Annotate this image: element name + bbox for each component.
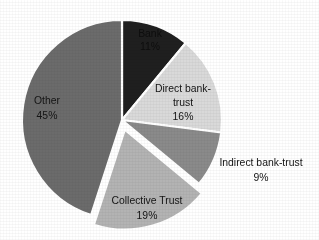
slice-label-other-value: 45%: [37, 110, 58, 121]
slice-label-collective-value: 19%: [137, 210, 158, 221]
slice-label-other-name: Other: [34, 95, 61, 106]
slice-label-collective-name: Collective Trust: [111, 195, 182, 206]
pie-chart-canvas: Bank 11% Direct bank- trust 16% Indirect…: [0, 0, 319, 240]
slice-label-bank-value: 11%: [140, 41, 160, 52]
pie-chart-figure: Bank 11% Direct bank- trust 16% Indirect…: [0, 0, 319, 240]
slice-label-direct-name-line2: trust: [173, 97, 193, 108]
slice-label-indirect-name: Indirect bank-trust: [219, 157, 302, 168]
slice-label-direct-value: 16%: [173, 111, 194, 122]
slice-label-bank-name: Bank: [138, 28, 162, 39]
slice-label-direct-name-line1: Direct bank-: [155, 83, 211, 94]
slice-label-indirect-value: 9%: [253, 172, 268, 183]
